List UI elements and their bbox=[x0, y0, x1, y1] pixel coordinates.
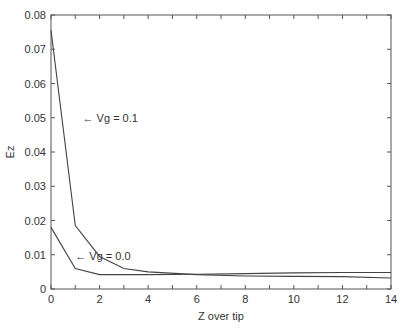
y-tick-label: 0.08 bbox=[25, 9, 46, 21]
x-tick-label: 8 bbox=[242, 293, 248, 305]
y-tick-label: 0.05 bbox=[25, 112, 46, 124]
series-annotation: ← Vg = 0.0 bbox=[75, 250, 130, 262]
plot-border bbox=[51, 15, 391, 289]
series-lines bbox=[51, 30, 391, 278]
y-tick-label: 0 bbox=[40, 283, 46, 295]
annotations: ← Vg = 0.1← Vg = 0.0 bbox=[75, 112, 138, 263]
x-tick-label: 2 bbox=[97, 293, 103, 305]
x-tick-label: 14 bbox=[385, 293, 397, 305]
series-annotation: ← Vg = 0.1 bbox=[83, 112, 138, 124]
line-chart: 0246810121400.010.020.030.040.050.060.07… bbox=[0, 0, 407, 331]
x-tick-label: 4 bbox=[145, 293, 151, 305]
x-tick-label: 10 bbox=[288, 293, 300, 305]
series-line bbox=[51, 30, 391, 278]
y-tick-label: 0.03 bbox=[25, 180, 46, 192]
x-tick-label: 0 bbox=[48, 293, 54, 305]
y-tick-label: 0.07 bbox=[25, 43, 46, 55]
y-tick-label: 0.06 bbox=[25, 78, 46, 90]
y-tick-label: 0.01 bbox=[25, 249, 46, 261]
plot-frame bbox=[51, 15, 391, 289]
x-axis-label: Z over tip bbox=[198, 310, 244, 322]
y-tick-label: 0.04 bbox=[25, 146, 46, 158]
y-tick-label: 0.02 bbox=[25, 215, 46, 227]
x-tick-label: 12 bbox=[336, 293, 348, 305]
x-tick-label: 6 bbox=[194, 293, 200, 305]
y-axis-label: Ez bbox=[4, 146, 16, 159]
